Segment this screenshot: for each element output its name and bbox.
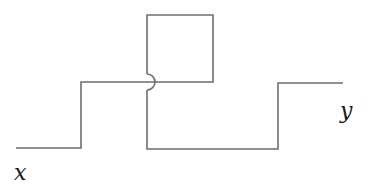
label-y: y [340,100,352,122]
diagram-canvas [0,0,371,190]
wire-to-y [147,83,343,149]
label-x: x [14,162,26,184]
wire-from-x [16,15,213,148]
